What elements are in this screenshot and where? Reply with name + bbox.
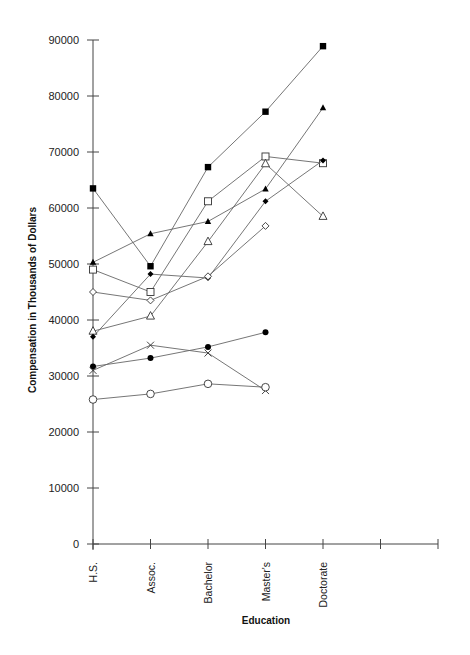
marker-square-filled — [147, 263, 153, 269]
series-filled-diamond — [90, 157, 326, 339]
line-chart: 0100002000030000400005000060000700008000… — [0, 0, 470, 655]
series-line — [93, 384, 266, 400]
marker-square-open — [205, 198, 212, 205]
series-line — [93, 226, 266, 300]
y-tick-label: 30000 — [48, 370, 79, 382]
y-tick-label: 20000 — [48, 426, 79, 438]
marker-square-filled — [205, 164, 211, 170]
x-tick-label: Master's — [260, 562, 272, 601]
y-tick-label: 80000 — [48, 90, 79, 102]
y-tick-label: 50000 — [48, 258, 79, 270]
marker-circle-filled — [263, 329, 269, 335]
x-tick-label: H.S. — [87, 562, 99, 582]
marker-square-filled — [90, 185, 96, 191]
marker-circle-open — [204, 380, 212, 388]
marker-diamond-open — [90, 289, 97, 296]
marker-circle-open — [147, 390, 155, 398]
marker-diamond-open — [147, 297, 154, 304]
marker-circle-open — [89, 396, 97, 404]
marker-triangle-filled — [205, 218, 211, 224]
y-tick-label: 10000 — [48, 482, 79, 494]
series-line — [93, 345, 266, 390]
y-tick-label: 60000 — [48, 202, 79, 214]
series-line — [93, 164, 323, 331]
x-tick-label: Bachelor — [202, 562, 214, 604]
y-axis-title: Compensation in Thousands of Dollars — [27, 207, 38, 394]
x-axis-title: Education — [242, 615, 290, 626]
marker-square-filled — [262, 108, 268, 114]
marker-triangle-filled — [320, 104, 326, 110]
y-tick-label: 40000 — [48, 314, 79, 326]
marker-square-open — [147, 289, 154, 296]
marker-triangle-filled — [90, 259, 96, 265]
marker-square-filled — [320, 43, 326, 49]
y-tick-label: 70000 — [48, 146, 79, 158]
x-tick-label: Doctorate — [317, 562, 329, 608]
series-open-diamond — [90, 222, 270, 303]
marker-circle-filled — [205, 344, 211, 350]
marker-circle-open — [262, 383, 270, 391]
series-layer — [89, 43, 327, 403]
series-line — [93, 160, 323, 336]
y-tick-label: 90000 — [48, 34, 79, 46]
x-tick-label: Assoc. — [145, 562, 157, 594]
series-open-circle — [89, 380, 269, 403]
series-filled-square — [90, 43, 326, 269]
marker-square-open — [90, 266, 97, 273]
series-line — [93, 156, 323, 292]
y-tick-label: 0 — [73, 538, 79, 550]
axes: 0100002000030000400005000060000700008000… — [48, 34, 438, 608]
marker-triangle-open — [319, 212, 327, 220]
marker-circle-filled — [148, 355, 154, 361]
